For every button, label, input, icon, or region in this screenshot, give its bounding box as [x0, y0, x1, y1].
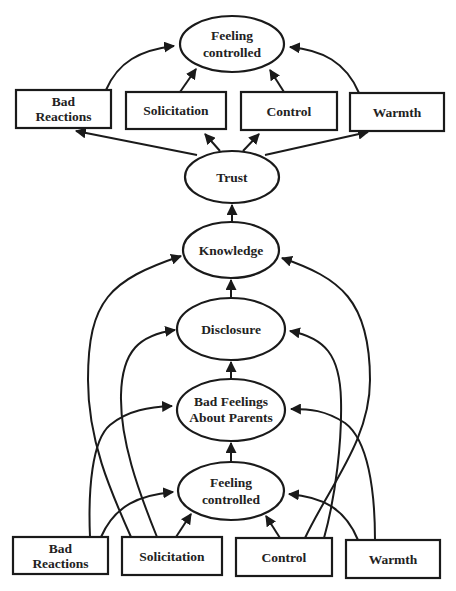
edge-trust-to-top-control [243, 134, 259, 151]
node-bottom-control: Control [236, 538, 332, 576]
edge-bottom-solicitation-to-feeling-controlled [176, 514, 191, 537]
node-bottom-solicitation: Solicitation [122, 537, 222, 575]
node-top-feeling-controlled: Feeling controlled [180, 16, 284, 72]
path-diagram: Feeling controlled Bad Reactions Solicit… [0, 0, 456, 591]
node-label: Solicitation [139, 549, 205, 564]
edge-top-bad-reactions-to-feeling-controlled [106, 46, 174, 90]
node-label: Reactions [32, 556, 88, 571]
node-label: controlled [203, 45, 262, 60]
edge-trust-to-top-bad-reactions [76, 131, 197, 155]
node-label: Bad [49, 541, 73, 556]
node-label: Feeling [211, 28, 253, 43]
edge-bottom-control-to-knowledge [282, 258, 370, 538]
node-top-solicitation: Solicitation [126, 92, 226, 129]
node-bottom-warmth: Warmth [346, 540, 440, 578]
edge-bottom-control-to-feeling-controlled [266, 516, 280, 538]
node-bottom-bad-reactions: Bad Reactions [13, 537, 108, 574]
node-label: Trust [216, 170, 248, 185]
node-bottom-feeling-controlled: Feeling controlled [178, 462, 284, 520]
edge-bottom-bad-reactions-to-bad-feelings [90, 406, 172, 537]
edge-trust-to-top-solicitation [205, 134, 220, 151]
edge-top-warmth-to-feeling-controlled [290, 47, 359, 93]
node-label: Feeling [210, 475, 252, 490]
edge-top-control-to-feeling-controlled [270, 70, 284, 92]
node-disclosure: Disclosure [177, 298, 285, 360]
node-top-control: Control [241, 92, 337, 130]
edge-bottom-warmth-to-feeling-controlled [289, 494, 358, 540]
node-bad-feelings-about-parents: Bad Feelings About Parents [177, 379, 285, 441]
node-label: Control [262, 550, 307, 565]
node-trust: Trust [185, 151, 279, 203]
node-top-bad-reactions: Bad Reactions [16, 90, 111, 128]
node-label: Solicitation [143, 103, 209, 118]
edge-bottom-solicitation-to-disclosure [121, 330, 175, 537]
node-label: About Parents [189, 410, 272, 425]
edge-bottom-bad-reactions-to-feeling-controlled [101, 492, 173, 537]
node-knowledge: Knowledge [183, 222, 279, 278]
node-top-warmth: Warmth [350, 93, 444, 131]
node-label: Disclosure [201, 322, 261, 337]
node-label: Knowledge [199, 243, 264, 258]
edge-bottom-solicitation-to-knowledge [88, 256, 181, 537]
node-label: Control [267, 104, 312, 119]
node-label: Warmth [369, 552, 418, 567]
node-label: controlled [202, 492, 261, 507]
node-label: Bad [52, 94, 76, 109]
edge-trust-to-top-warmth [265, 132, 368, 155]
node-label: Reactions [35, 109, 91, 124]
node-label: Bad Feelings [194, 394, 268, 409]
node-label: Warmth [373, 105, 422, 120]
edge-top-solicitation-to-feeling-controlled [180, 69, 196, 92]
